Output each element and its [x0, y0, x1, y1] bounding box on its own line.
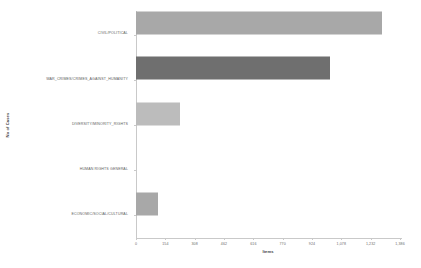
x-axis-line — [136, 238, 402, 239]
x-tick-label: 462 — [221, 243, 227, 247]
y-tick-mark — [134, 125, 136, 126]
x-tick-mark — [371, 238, 372, 240]
x-tick-mark — [341, 238, 342, 240]
x-tick-mark — [224, 238, 225, 240]
x-tick-mark — [400, 238, 401, 240]
x-tick-label: 1,078 — [337, 243, 347, 247]
x-tick-label: 154 — [162, 243, 168, 247]
x-tick-label: 1,232 — [366, 243, 376, 247]
x-axis-title: Items — [262, 250, 273, 254]
category-label: DIVERSITY/MINORITY_RIGHTS — [0, 123, 132, 127]
bar — [136, 192, 158, 215]
category-label: WAR_CRIMES/CRIMES_AGAINST_HUMANITY — [0, 78, 132, 82]
x-tick-mark — [312, 238, 313, 240]
y-tick-mark — [134, 80, 136, 81]
x-tick-mark — [165, 238, 166, 240]
category-label: HUMAN RIGHTS GENERAL — [0, 168, 132, 172]
bar — [136, 102, 180, 125]
x-tick-label: 616 — [250, 243, 256, 247]
x-tick-mark — [136, 238, 137, 240]
x-tick-label: 1,386 — [395, 243, 405, 247]
x-tick-mark — [195, 238, 196, 240]
bar — [136, 57, 330, 80]
x-tick-mark — [283, 238, 284, 240]
category-label: CIVIL/POLITICAL — [0, 32, 132, 36]
bar — [136, 12, 382, 35]
x-tick-label: 308 — [192, 243, 198, 247]
y-tick-mark — [134, 35, 136, 36]
x-tick-label: 0 — [135, 243, 137, 247]
x-tick-mark — [253, 238, 254, 240]
y-tick-mark — [134, 170, 136, 171]
x-tick-label: 770 — [280, 243, 286, 247]
y-tick-mark — [134, 215, 136, 216]
bar-chart: No of Cases Items CIVIL/POLITICALWAR_CRI… — [0, 0, 421, 268]
category-label: ECONOMIC/SOCIAL/CULTURAL — [0, 213, 132, 217]
x-tick-label: 924 — [309, 243, 315, 247]
